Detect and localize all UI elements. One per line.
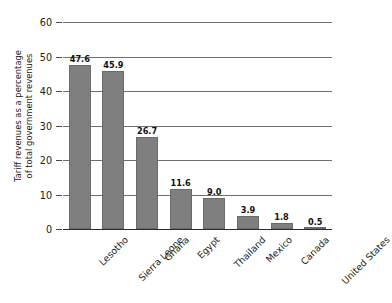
x-category-label: Egypt: [195, 234, 222, 261]
x-axis-baseline: [63, 229, 332, 230]
bar[interactable]: 0.5: [304, 227, 326, 229]
bar[interactable]: 9.0: [203, 198, 225, 229]
y-axis-title-line-1: Tariff revenues as a percentage: [13, 50, 24, 182]
gridline: [63, 22, 332, 23]
y-tick-label: 0: [46, 224, 52, 235]
x-category-label-text: Egypt: [195, 234, 222, 261]
y-tick-label: 60: [40, 17, 52, 28]
bar[interactable]: 26.7: [136, 137, 158, 229]
plot-area: 0102030405060 47.645.926.711.69.03.91.80…: [63, 22, 332, 229]
x-category-label: United States: [340, 234, 392, 286]
x-category-label: Lesotho: [97, 234, 131, 268]
y-tick-label: 40: [40, 86, 52, 97]
y-tick-mark: [56, 160, 62, 161]
y-tick-mark: [56, 126, 62, 127]
bar-value-label: 0.5: [308, 217, 323, 227]
y-tick-mark: [56, 229, 62, 230]
y-tick-mark: [56, 91, 62, 92]
y-tick-label: 30: [40, 120, 52, 131]
bar-value-label: 26.7: [137, 126, 157, 136]
bar-value-label: 47.6: [70, 54, 90, 64]
bar[interactable]: 47.6: [69, 65, 91, 229]
x-category-label-text: Canada: [298, 234, 331, 267]
bar[interactable]: 3.9: [237, 216, 259, 229]
bar-value-label: 1.8: [274, 212, 289, 222]
x-category-label: Mexico: [263, 234, 294, 265]
bar[interactable]: 45.9: [102, 71, 124, 229]
bar[interactable]: 11.6: [170, 189, 192, 229]
bar-value-label: 9.0: [207, 187, 222, 197]
bar-value-label: 11.6: [171, 178, 191, 188]
y-tick-label: 50: [40, 51, 52, 62]
x-category-label-text: United States: [340, 234, 392, 286]
y-tick-mark: [56, 22, 62, 23]
y-tick-mark: [56, 195, 62, 196]
x-category-label: Canada: [298, 234, 331, 267]
x-category-label-text: Thailand: [232, 234, 268, 270]
x-category-label-text: Mexico: [263, 234, 294, 265]
y-tick-label: 10: [40, 189, 52, 200]
y-tick-mark: [56, 57, 62, 58]
y-tick-label: 20: [40, 155, 52, 166]
x-category-label-text: Lesotho: [97, 234, 131, 268]
gridline: [63, 57, 332, 58]
bar[interactable]: 1.8: [271, 223, 293, 229]
bar-value-label: 3.9: [241, 205, 256, 215]
y-axis-title-line-2: of total government revenues: [24, 54, 35, 179]
x-category-label: Thailand: [232, 234, 268, 270]
y-axis-title: Tariff revenues as a percentage of total…: [9, 0, 39, 232]
bar-value-label: 45.9: [103, 60, 123, 70]
